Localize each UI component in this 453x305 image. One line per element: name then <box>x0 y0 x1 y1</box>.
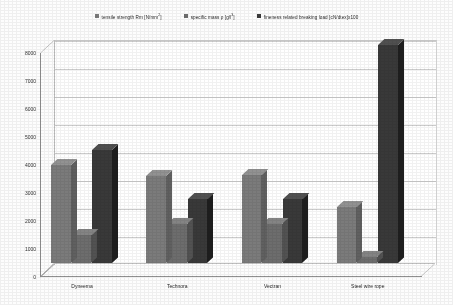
bar-group <box>242 39 304 263</box>
bar-side-face <box>356 202 362 263</box>
y-axis-tick-label: 2000 <box>25 218 40 224</box>
bar-side-face <box>302 193 308 263</box>
bar-side-face <box>207 193 213 263</box>
bar-front-face <box>378 45 398 263</box>
bar-group <box>337 39 399 263</box>
bar-technora-series-1[interactable] <box>146 176 166 263</box>
legend-item-tensile-strength[interactable]: tensile strength Rm [N/mm2] <box>95 13 162 20</box>
x-axis-category-label: Technora <box>167 283 188 289</box>
legend-text-tail-1: ] <box>160 15 161 20</box>
bar-side-face <box>91 230 97 263</box>
y-axis-tick-label: 3000 <box>25 190 40 196</box>
legend-swatch-specific-mass <box>184 14 188 18</box>
bar-group <box>146 39 208 263</box>
chart-bars-layer <box>40 40 436 277</box>
legend-label-tensile-strength: tensile strength Rm [N/mm2] <box>102 13 162 20</box>
bar-side-face <box>282 218 288 263</box>
y-axis-tick-label: 1000 <box>25 246 40 252</box>
legend-text-main-3: fineness related breaking load [cN/dtex]… <box>264 15 359 20</box>
y-axis-tick-label: 8000 <box>25 50 40 56</box>
legend-label-fineness-breaking-load: fineness related breaking load [cN/dtex]… <box>264 13 359 20</box>
x-axis-category-label: Dyneema <box>71 283 92 289</box>
legend-text-tail-2: ] <box>233 15 234 20</box>
bar-dyneema-series-1[interactable] <box>51 165 71 263</box>
bar-side-face <box>261 169 267 263</box>
legend-swatch-fineness-breaking-load <box>257 14 261 18</box>
x-axis-category-label: Vectran <box>264 283 281 289</box>
legend-text-main-2: specific mass ρ [g/l <box>191 15 232 20</box>
y-axis-tick-label: 6000 <box>25 106 40 112</box>
chart-plot-area: 010002000300040005000600070008000 <box>40 40 435 277</box>
bar-side-face <box>398 39 404 263</box>
legend-item-specific-mass[interactable]: specific mass ρ [g/l3] <box>184 13 235 20</box>
bar-side-face <box>71 160 77 263</box>
bar-front-face <box>51 165 71 263</box>
y-axis-tick-label: 7000 <box>25 78 40 84</box>
legend-label-specific-mass: specific mass ρ [g/l3] <box>191 13 235 20</box>
bar-front-face <box>242 175 262 263</box>
y-axis-tick-label: 4000 <box>25 162 40 168</box>
bar-steel-wire-rope-series-1[interactable] <box>337 207 357 263</box>
bar-front-face <box>146 176 166 263</box>
y-axis-tick-label: 5000 <box>25 134 40 140</box>
bar-front-face <box>337 207 357 263</box>
x-axis-category-label: Steel wire rope <box>351 283 384 289</box>
bar-side-face <box>187 218 193 263</box>
bar-side-face <box>112 144 118 263</box>
bar-steel-wire-rope-series-3[interactable] <box>378 45 398 263</box>
legend-item-fineness-breaking-load[interactable]: fineness related breaking load [cN/dtex]… <box>257 13 359 20</box>
legend-text-main-1: tensile strength Rm [N/mm <box>102 15 159 20</box>
y-axis-tick-label: 0 <box>33 274 40 280</box>
chart-legend: tensile strength Rm [N/mm2] specific mas… <box>0 13 453 20</box>
bar-side-face <box>166 171 172 263</box>
legend-swatch-tensile-strength <box>95 14 99 18</box>
bar-vectran-series-1[interactable] <box>242 175 262 263</box>
bar-group <box>51 39 113 263</box>
